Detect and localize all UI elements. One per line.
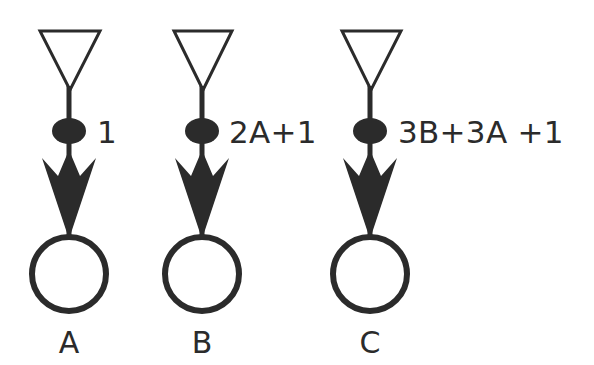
filled-ellipse-icon: [353, 118, 387, 144]
unit-c-weight-label: 3B+3A +1: [398, 114, 564, 150]
inverted-triangle-icon: [174, 31, 232, 90]
unit-b-node-label: B: [192, 325, 213, 360]
open-circle-icon: [32, 237, 106, 311]
diagram-canvas: A 1 B 2A+1 C 3B+3A +1: [0, 0, 594, 365]
barbed-down-arrow-icon: [42, 150, 96, 239]
barbed-down-arrow-icon: [175, 150, 229, 239]
filled-ellipse-icon: [52, 118, 86, 144]
unit-b-weight-label: 2A+1: [229, 114, 317, 150]
barbed-down-arrow-icon: [343, 150, 397, 239]
inverted-triangle-icon: [342, 31, 401, 90]
open-circle-icon: [333, 237, 407, 311]
diagram-svg: A 1 B 2A+1 C 3B+3A +1: [0, 0, 594, 365]
unit-a-group: A 1: [32, 31, 117, 360]
unit-a-node-label: A: [59, 325, 80, 360]
unit-c-node-label: C: [360, 325, 381, 360]
unit-a-weight-label: 1: [97, 114, 117, 150]
unit-c-group: C 3B+3A +1: [333, 31, 564, 360]
filled-ellipse-icon: [185, 118, 219, 144]
open-circle-icon: [165, 237, 239, 311]
unit-b-group: B 2A+1: [165, 31, 317, 360]
inverted-triangle-icon: [40, 31, 100, 90]
